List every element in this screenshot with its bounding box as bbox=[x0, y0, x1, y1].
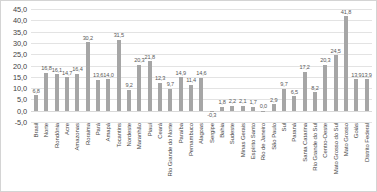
bar-value-label: 20,3 bbox=[134, 57, 144, 63]
bar bbox=[106, 79, 110, 111]
bar-slot: 9,7 bbox=[279, 9, 289, 122]
bar-slot: 1,8 bbox=[217, 9, 227, 122]
x-category: Sul bbox=[279, 122, 289, 184]
x-category-label: Rio Grande do Sul bbox=[312, 123, 318, 171]
bar-slot: 16,1 bbox=[52, 9, 62, 122]
x-category-label: Mato Grosso bbox=[343, 123, 349, 156]
bar bbox=[323, 65, 327, 111]
x-category: Pernambuco bbox=[186, 122, 196, 184]
x-category-label: Sergipe bbox=[209, 123, 215, 143]
x-category: Goiás bbox=[351, 122, 361, 184]
bar-slot: 13,6 bbox=[93, 9, 103, 122]
bar-value-label: 13,9 bbox=[351, 72, 361, 78]
x-category: Distrito Federal bbox=[362, 122, 372, 184]
bar-slot: 14,0 bbox=[103, 9, 113, 122]
bar bbox=[241, 106, 245, 111]
x-category: São Paulo bbox=[269, 122, 279, 184]
x-category: Santa Catarina bbox=[300, 122, 310, 184]
bar-slot: 8,2 bbox=[310, 9, 320, 122]
x-category: Nordeste bbox=[124, 122, 134, 184]
bar-slot: 13,9 bbox=[362, 9, 372, 122]
x-category-label: Bahia bbox=[219, 123, 225, 138]
bar-slot: 6,8 bbox=[31, 9, 41, 122]
bar-value-label: 0,0 bbox=[260, 103, 267, 109]
bar bbox=[199, 78, 203, 111]
bar bbox=[292, 96, 296, 111]
bar-series: 6,816,816,114,716,430,213,614,031,59,220… bbox=[31, 9, 372, 122]
x-category-label: Espírito Santo bbox=[250, 123, 256, 159]
x-category-label: Sudeste bbox=[229, 123, 235, 144]
bar-value-label: 8,2 bbox=[311, 85, 318, 91]
x-category-label: Paraíba bbox=[178, 123, 184, 143]
x-category: Paraíba bbox=[176, 122, 186, 184]
bar-value-label: 9,7 bbox=[167, 81, 174, 87]
x-category: Amapá bbox=[103, 122, 113, 184]
bar-value-label: 1,7 bbox=[249, 99, 256, 105]
bar-value-label: 14,6 bbox=[196, 70, 206, 76]
y-tick-label: 0,0 bbox=[17, 106, 27, 115]
bar bbox=[282, 89, 286, 111]
bar-slot: 2,9 bbox=[269, 9, 279, 122]
y-tick-label: 20,0 bbox=[13, 61, 27, 70]
x-category-label: Pará bbox=[95, 123, 101, 135]
x-category-label: Brasil bbox=[33, 123, 39, 137]
bar bbox=[220, 107, 224, 111]
x-category-label: Amapá bbox=[105, 123, 111, 142]
x-category-label: Rio de Janeiro bbox=[260, 123, 266, 160]
bar-slot: 14,7 bbox=[62, 9, 72, 122]
bar bbox=[137, 65, 141, 111]
x-category-label: Roraima bbox=[85, 123, 91, 145]
bar-value-label: 2,2 bbox=[229, 98, 236, 104]
bar-value-label: 14,9 bbox=[176, 70, 186, 76]
bar-value-label: 2,1 bbox=[239, 98, 246, 104]
bar-value-label: 17,2 bbox=[300, 64, 310, 70]
bar-value-label: 21,8 bbox=[145, 54, 155, 60]
bar bbox=[313, 92, 317, 111]
x-category: Espírito Santo bbox=[248, 122, 258, 184]
bar bbox=[354, 79, 358, 110]
bar-slot: 13,9 bbox=[351, 9, 361, 122]
bar bbox=[251, 107, 255, 111]
bar-value-label: 6,8 bbox=[32, 88, 39, 94]
x-category: Acre bbox=[62, 122, 72, 184]
bar-value-label: 13,9 bbox=[362, 72, 372, 78]
x-category: Roraima bbox=[83, 122, 93, 184]
x-category: Mato Grosso do Sul bbox=[331, 122, 341, 184]
bar-value-label: 11,4 bbox=[186, 77, 196, 83]
x-category: Rio Grande do Sul bbox=[310, 122, 320, 184]
bar-value-label: 14,0 bbox=[103, 72, 113, 78]
bar bbox=[230, 106, 234, 111]
x-category: Amazonas bbox=[72, 122, 82, 184]
bar-value-label: 1,8 bbox=[218, 99, 225, 105]
x-category-label: Paraná bbox=[291, 123, 297, 142]
x-category-label: Alagoas bbox=[198, 123, 204, 144]
bar-slot: 9,2 bbox=[124, 9, 134, 122]
bar-slot: 12,3 bbox=[155, 9, 165, 122]
bar-slot: 0,0 bbox=[258, 9, 268, 122]
bar-slot: 21,8 bbox=[145, 9, 155, 122]
bar-value-label: 16,8 bbox=[41, 65, 51, 71]
x-category-label: Tocantins bbox=[116, 123, 122, 147]
bar bbox=[44, 73, 48, 111]
x-category: Rondônia bbox=[52, 122, 62, 184]
bar bbox=[272, 104, 276, 111]
bar-value-label: -0,3 bbox=[207, 112, 216, 118]
bar bbox=[55, 74, 59, 110]
x-category: Rio Grande do Norte bbox=[165, 122, 175, 184]
x-category-label: Rio Grande do Norte bbox=[167, 123, 173, 176]
x-category-label: Minas Gerais bbox=[240, 123, 246, 157]
x-category-label: Goiás bbox=[353, 123, 359, 138]
bar-slot: 16,8 bbox=[41, 9, 51, 122]
bar-value-label: 9,7 bbox=[280, 81, 287, 87]
y-tick-label: 25,0 bbox=[13, 50, 27, 59]
x-category-label: Amazonas bbox=[74, 123, 80, 151]
bar-value-label: 12,3 bbox=[155, 75, 165, 81]
bar-value-label: 9,2 bbox=[125, 82, 132, 88]
bar-value-label: 31,5 bbox=[114, 32, 124, 38]
x-category-label: Piauí bbox=[147, 123, 153, 136]
y-tick-label: 40,0 bbox=[13, 16, 27, 25]
bar bbox=[86, 42, 90, 110]
bar-value-label: 2,9 bbox=[270, 97, 277, 103]
y-tick-label: 35,0 bbox=[13, 27, 27, 36]
bar-value-label: 16,1 bbox=[52, 67, 62, 73]
